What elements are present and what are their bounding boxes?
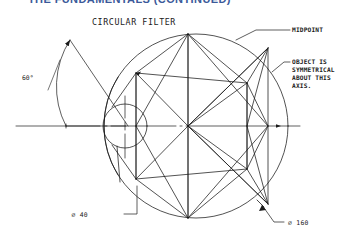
svg-text:ABOUT THIS: ABOUT THIS <box>292 74 331 81</box>
angle-dimension-60 <box>48 40 128 128</box>
outer-dimension-arrow <box>257 200 264 207</box>
symmetry-note: OBJECT IS SYMMETRICAL ABOUT THIS AXIS. <box>292 58 335 89</box>
outer-dimension-leader <box>259 205 284 222</box>
technical-drawing: CIRCULAR FILTER MIDPOINT OBJECT IS SYMME… <box>0 0 354 242</box>
bore-tangent-lines <box>112 73 136 182</box>
symmetry-note-leader <box>272 62 290 72</box>
svg-text:AXIS.: AXIS. <box>292 82 311 89</box>
construction-lines-lower <box>136 126 268 218</box>
midpoint-leader <box>236 30 290 40</box>
svg-text:SYMMETRICAL: SYMMETRICAL <box>292 66 335 73</box>
construction-arrowheads <box>136 70 281 128</box>
midpoint-label: MIDPOINT <box>292 26 323 33</box>
outer-diameter-label: ⌀ 160 <box>288 219 309 227</box>
angle-label: 60° <box>22 74 34 82</box>
drawing-page: THE FUNDAMENTALS (CONTINUED) <box>0 0 354 242</box>
svg-text:OBJECT IS: OBJECT IS <box>292 58 327 65</box>
construction-lines-upper <box>136 34 268 126</box>
bore-diameter-label: ⌀ 40 <box>71 211 88 219</box>
drawing-title: CIRCULAR FILTER <box>92 17 176 27</box>
